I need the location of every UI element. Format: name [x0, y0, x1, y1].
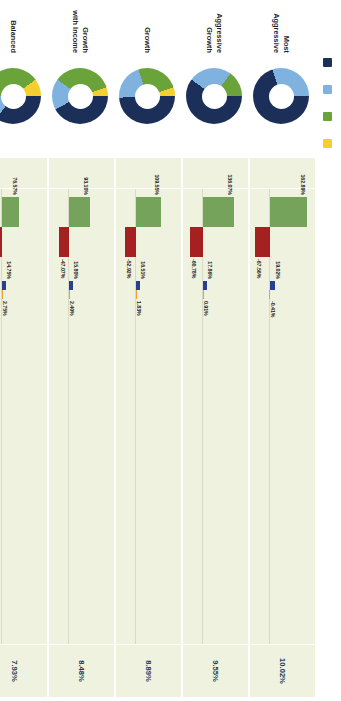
portfolio-row: AggressiveGrowth136.07%-60.78%17.86%0.91… — [181, 4, 248, 697]
bar-value-label: 2.75% — [2, 301, 8, 316]
highest-fifteen-year-bar — [136, 281, 140, 290]
portfolio-name-line: Balanced — [9, 20, 18, 53]
lowest-one-year-bar — [0, 227, 2, 257]
highest-one-year-bar — [270, 197, 306, 227]
zero-line — [135, 189, 136, 644]
lowest-fifteen-year-bar — [203, 290, 204, 299]
chart-canvas: MostAggressive162.89%-67.56%19.02%-0.41%… — [0, 0, 341, 701]
portfolio-name-line: Most — [282, 13, 291, 53]
lowest-fifteen-year-bar — [69, 290, 70, 299]
asset-legend-swatch — [324, 139, 333, 148]
donut-ring — [120, 68, 176, 124]
bar-value-label: 109.55% — [154, 174, 160, 195]
bar-value-label: 17.86% — [207, 261, 213, 279]
bar-plot: 162.89%-67.56%19.02%-0.41% — [250, 189, 315, 644]
average-annual-return-value: 8.89% — [114, 645, 181, 697]
bar-value-label: -52.92% — [126, 259, 132, 278]
bar-value-label: 93.10% — [83, 177, 89, 195]
bar-value-label: 136.07% — [227, 174, 233, 195]
portfolio-name: Growthwith Income — [47, 4, 114, 60]
lowest-one-year-bar — [59, 227, 70, 257]
portfolio-row: MostAggressive162.89%-67.56%19.02%-0.41%… — [248, 4, 315, 697]
allocation-donut-chart — [47, 60, 114, 132]
portfolio-name: AggressiveGrowth — [181, 4, 248, 60]
donut-ring — [187, 68, 243, 124]
portfolio-name: MostAggressive — [248, 4, 315, 60]
average-annual-return-value: 8.48% — [47, 645, 114, 697]
zero-line — [269, 189, 270, 644]
bar-value-label: -47.07% — [60, 259, 66, 278]
lowest-one-year-bar — [190, 227, 204, 257]
highest-fifteen-year-bar — [203, 281, 207, 290]
allocation-donut-chart — [248, 60, 315, 132]
returns-bar-cell: 136.07%-60.78%17.86%0.91% — [181, 188, 248, 645]
bar-value-label: 76.57% — [12, 177, 18, 195]
zero-line — [202, 189, 203, 644]
row-gap — [114, 132, 181, 158]
portfolio-name-line: with Income — [71, 10, 80, 53]
asset-legend-item — [324, 112, 333, 125]
donut-ring — [254, 68, 310, 124]
row-gap — [47, 132, 114, 158]
portfolio-board: MostAggressive162.89%-67.56%19.02%-0.41%… — [0, 0, 315, 701]
asset-class-legend — [315, 0, 341, 701]
axis-gutter — [114, 158, 181, 188]
allocation-donut-chart — [181, 60, 248, 132]
lowest-fifteen-year-bar — [269, 290, 270, 299]
axis-gutter — [0, 158, 47, 188]
asset-legend-swatch — [324, 85, 333, 94]
bar-value-label: 19.02% — [275, 261, 281, 279]
bar-value-label: 2.40% — [69, 301, 75, 316]
bar-value-label: 162.89% — [300, 174, 306, 195]
lowest-fifteen-year-bar — [2, 290, 3, 299]
portfolio-row: Growth109.55%-52.92%16.51%1.83%8.89% — [114, 4, 181, 697]
lowest-one-year-bar — [125, 227, 137, 257]
row-gap — [248, 132, 315, 158]
bar-value-label: -60.78% — [191, 259, 197, 278]
portfolio-name-line: Growth — [81, 10, 90, 53]
bar-plot: 109.55%-52.92%16.51%1.83% — [116, 189, 181, 644]
returns-bar-cell: 76.57%-40.64%14.75%2.75% — [0, 188, 47, 645]
zero-line — [68, 189, 69, 644]
portfolio-name: Balanced — [0, 4, 47, 60]
asset-legend-item — [324, 85, 333, 98]
highest-one-year-bar — [69, 197, 90, 227]
row-gap — [181, 132, 248, 158]
highest-fifteen-year-bar — [2, 281, 5, 290]
average-annual-return-value: 7.93% — [0, 645, 47, 697]
allocation-donut-chart — [0, 60, 47, 132]
bar-value-label: 14.75% — [6, 261, 12, 279]
returns-bar-cell: 162.89%-67.56%19.02%-0.41% — [248, 188, 315, 645]
bar-value-label: -0.41% — [270, 301, 276, 317]
portfolio-name-line: Aggressive — [215, 13, 224, 53]
bar-value-label: 0.91% — [203, 301, 209, 316]
returns-bar-cell: 109.55%-52.92%16.51%1.83% — [114, 188, 181, 645]
lowest-one-year-bar — [255, 227, 270, 257]
portfolio-name: Growth — [114, 4, 181, 60]
bar-value-label: 15.80% — [73, 261, 79, 279]
bar-value-label: 1.83% — [136, 301, 142, 316]
bar-plot: 136.07%-60.78%17.86%0.91% — [183, 189, 248, 644]
allocation-donut-chart — [114, 60, 181, 132]
donut-ring — [0, 68, 42, 124]
highest-one-year-bar — [2, 197, 19, 227]
portfolio-row: Growthwith Income93.10%-47.07%15.80%2.40… — [47, 4, 114, 697]
row-gap — [0, 132, 47, 158]
average-annual-return-value: 10.02% — [248, 645, 315, 697]
axis-gutter — [47, 158, 114, 188]
portfolio-name-line: Growth — [143, 27, 152, 53]
asset-legend-item — [324, 139, 333, 152]
bar-value-label: 16.51% — [140, 261, 146, 279]
highest-one-year-bar — [136, 197, 160, 227]
lowest-fifteen-year-bar — [136, 290, 137, 299]
axis-gutter — [181, 158, 248, 188]
highest-fifteen-year-bar — [69, 281, 73, 290]
donut-ring — [53, 68, 109, 124]
highest-fifteen-year-bar — [270, 281, 274, 290]
bar-value-label: -67.56% — [256, 259, 262, 278]
asset-legend-item — [324, 58, 333, 71]
portfolio-name-line: Aggressive — [272, 13, 281, 53]
bar-plot: 76.57%-40.64%14.75%2.75% — [0, 189, 47, 644]
highest-one-year-bar — [203, 197, 233, 227]
asset-legend-swatch — [324, 112, 333, 121]
